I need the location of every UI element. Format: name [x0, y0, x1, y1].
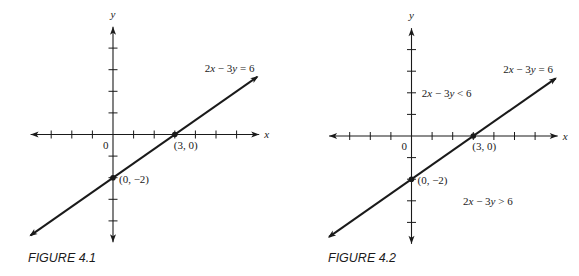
equation-label: 2x − 3y > 6 [463, 195, 513, 207]
origin-label: 0 [103, 139, 109, 151]
series-line [329, 78, 556, 236]
point-label: (3, 0) [174, 139, 198, 152]
equation-label: 2x − 3y = 6 [503, 63, 553, 75]
figure-caption: FIGURE 4.1 [28, 251, 96, 265]
y-axis-label: y [110, 8, 116, 20]
data-point [172, 132, 178, 138]
data-point [409, 176, 415, 182]
y-axis-label: y [408, 9, 414, 21]
point-label: (0, −2) [418, 174, 448, 187]
figure-caption: FIGURE 4.2 [328, 251, 396, 265]
figure-2: xy0(3, 0)(0, −2)2x − 3y = 62x − 3y < 62x… [328, 9, 568, 265]
point-label: (3, 0) [472, 140, 496, 153]
equation-label: 2x − 3y < 6 [422, 87, 472, 99]
figure-1: xy0(3, 0)(0, −2)2x − 3y = 6FIGURE 4.1 [28, 8, 269, 265]
series-line [31, 77, 258, 235]
equation-label: 2x − 3y = 6 [205, 62, 255, 74]
origin-label: 0 [402, 140, 408, 152]
figure-canvas: xy0(3, 0)(0, −2)2x − 3y = 6FIGURE 4.1xy0… [0, 0, 579, 276]
x-axis-label: x [562, 130, 568, 142]
data-point [471, 133, 477, 139]
data-point [110, 175, 116, 181]
point-label: (0, −2) [119, 173, 149, 186]
x-axis-label: x [263, 128, 269, 140]
